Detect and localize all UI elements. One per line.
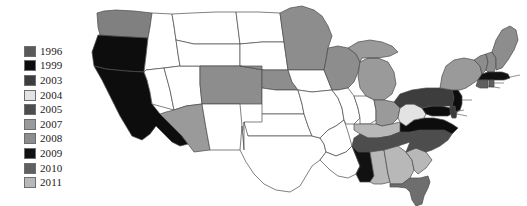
legend-item: 2011	[24, 175, 62, 190]
legend-item-label: 2004	[40, 90, 62, 101]
legend-item: 2003	[24, 73, 62, 88]
state-ND[interactable]	[236, 12, 284, 44]
state-MT[interactable]	[172, 12, 240, 44]
legend-item: 2005	[24, 102, 62, 117]
state-PA[interactable]	[394, 88, 454, 108]
legend-item-label: 1996	[40, 46, 62, 57]
legend-item: 2009	[24, 146, 62, 161]
legend-item-label: 2003	[40, 75, 62, 86]
state-NC[interactable]	[406, 130, 452, 152]
state-MD[interactable]	[422, 106, 454, 116]
state-NY[interactable]	[440, 58, 482, 90]
legend-swatch	[24, 177, 36, 188]
legend-item: 2008	[24, 132, 62, 147]
state-KS[interactable]	[262, 88, 304, 114]
legend-item: 1999	[24, 59, 62, 74]
state-CT[interactable]	[476, 80, 488, 88]
legend-item: 2007	[24, 117, 62, 132]
figure-canvas: 1996 1999 2003 2004 2005 2007 2008 2009	[0, 0, 527, 206]
legend-swatch	[24, 46, 36, 57]
state-MN[interactable]	[280, 6, 332, 70]
legend-item-label: 2011	[40, 177, 62, 188]
legend-item: 1996	[24, 44, 62, 59]
legend-swatch	[24, 163, 36, 174]
legend-item-label: 2005	[40, 104, 62, 115]
legend-item: 2004	[24, 88, 62, 103]
state-RI[interactable]	[489, 80, 494, 87]
state-ME[interactable]	[492, 26, 518, 70]
us-choropleth-map	[76, 0, 527, 206]
legend-swatch	[24, 148, 36, 159]
legend-swatch	[24, 90, 36, 101]
leader-line-de	[457, 114, 467, 116]
legend: 1996 1999 2003 2004 2005 2007 2008 2009	[24, 44, 62, 190]
legend-item-label: 2009	[40, 148, 62, 159]
state-OR[interactable]	[92, 35, 148, 72]
legend-item: 2010	[24, 161, 62, 176]
legend-swatch	[24, 75, 36, 86]
state-WY[interactable]	[176, 40, 240, 66]
legend-item-label: 2010	[40, 163, 62, 174]
leader-line-ma	[510, 75, 520, 77]
state-WA[interactable]	[97, 10, 152, 38]
legend-swatch	[24, 119, 36, 130]
state-OK[interactable]	[244, 114, 312, 136]
legend-swatch	[24, 104, 36, 115]
state-shapes	[92, 6, 520, 206]
legend-item-label: 2007	[40, 119, 62, 130]
state-CO[interactable]	[200, 66, 262, 104]
legend-item-label: 2008	[40, 133, 62, 144]
legend-item-label: 1999	[40, 60, 62, 71]
legend-swatch	[24, 60, 36, 71]
legend-swatch	[24, 133, 36, 144]
